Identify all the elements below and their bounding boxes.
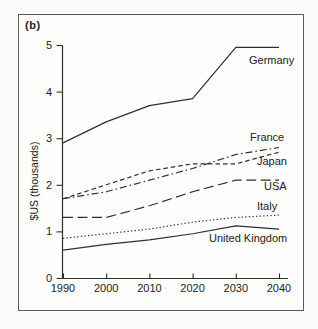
x-tick-label: 2020: [180, 282, 204, 294]
series-label-united-kingdom: United Kingdom: [209, 232, 287, 244]
series-label-japan: Japan: [257, 155, 287, 167]
series-line-usa: [63, 180, 279, 217]
y-tick-label: 5: [46, 39, 52, 51]
y-tick-label: 2: [46, 179, 52, 191]
series-line-japan: [63, 152, 279, 199]
series-line-france: [63, 148, 279, 199]
y-tick-label: 3: [46, 132, 52, 144]
y-tick-label: 1: [46, 225, 52, 237]
line-chart: 012345199020002010202020302040GermanyFra…: [0, 0, 318, 329]
series-label-italy: Italy: [257, 200, 278, 212]
x-tick-label: 2000: [94, 282, 118, 294]
x-tick-label: 2040: [267, 282, 291, 294]
series-label-usa: USA: [264, 180, 287, 192]
series-label-france: France: [250, 131, 284, 143]
series-label-germany: Germany: [249, 54, 295, 66]
x-tick-label: 1990: [51, 282, 75, 294]
series-line-germany: [63, 47, 279, 143]
y-tick-label: 4: [46, 86, 52, 98]
x-tick-label: 2010: [137, 282, 161, 294]
x-tick-label: 2030: [224, 282, 248, 294]
